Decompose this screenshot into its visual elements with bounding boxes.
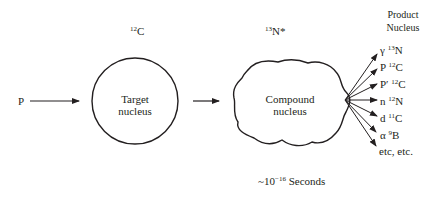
- compound-label-line2: nucleus: [255, 106, 325, 117]
- product-item: α 9B: [380, 130, 399, 141]
- product-element-symbol: N: [395, 95, 403, 107]
- target-isotope-label: 12C: [130, 26, 144, 37]
- product-particle: d: [380, 112, 386, 124]
- projectile-label: P: [18, 96, 24, 107]
- product-particle: n: [380, 95, 386, 107]
- compound-label-line1: Compound: [255, 94, 325, 105]
- compound-lifetime: ~10−16 Seconds: [258, 176, 325, 187]
- product-particle: γ: [380, 44, 385, 56]
- product-item: d 11C: [380, 113, 402, 124]
- product-mass-number: 13: [388, 44, 395, 52]
- product-element-symbol: C: [395, 112, 402, 124]
- target-element-symbol: C: [137, 25, 144, 37]
- product-header-line1: Product: [375, 10, 431, 20]
- compound-element-symbol: N*: [272, 25, 285, 37]
- product-item: n 12N: [380, 96, 403, 107]
- target-label-line2: nucleus: [105, 106, 165, 117]
- product-header-line2: Nucleus: [375, 23, 431, 33]
- product-item: P′ 12C: [380, 79, 406, 90]
- target-label-line1: Target: [105, 94, 165, 105]
- product-element-symbol: B: [392, 129, 399, 141]
- product-particle: P′: [380, 78, 389, 90]
- product-item: γ 13N: [380, 45, 403, 56]
- lifetime-exponent: −16: [275, 175, 286, 183]
- diagram-graphics: [0, 0, 437, 197]
- product-item: P 12C: [380, 62, 403, 73]
- product-particle: P: [380, 61, 386, 73]
- compound-isotope-label: 13N*: [265, 26, 285, 37]
- product-element-symbol: N: [395, 44, 403, 56]
- target-mass-number: 12: [130, 25, 137, 33]
- lifetime-unit: Seconds: [289, 175, 326, 187]
- compound-mass-number: 13: [265, 25, 272, 33]
- product-element-symbol: C: [398, 78, 405, 90]
- lifetime-prefix: ~10: [258, 175, 275, 187]
- product-particle: α: [380, 129, 386, 141]
- product-mass-number: 11: [388, 112, 395, 120]
- product-element-symbol: C: [395, 61, 402, 73]
- product-arrows: [345, 54, 377, 146]
- product-footer: etc, etc.: [379, 146, 413, 157]
- nuclear-reaction-diagram: P 12C Target nucleus 13N* Compound nucle…: [0, 0, 437, 197]
